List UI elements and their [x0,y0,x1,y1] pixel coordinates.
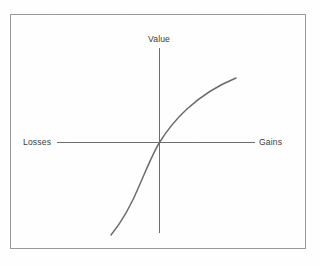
x-axis-label-gains: Gains [259,138,282,147]
x-axis-label-losses: Losses [23,138,51,147]
value-function-curve [111,78,236,235]
figure-canvas: Value Losses Gains [0,0,320,266]
y-axis-label: Value [148,35,170,44]
figure-border [11,15,306,249]
